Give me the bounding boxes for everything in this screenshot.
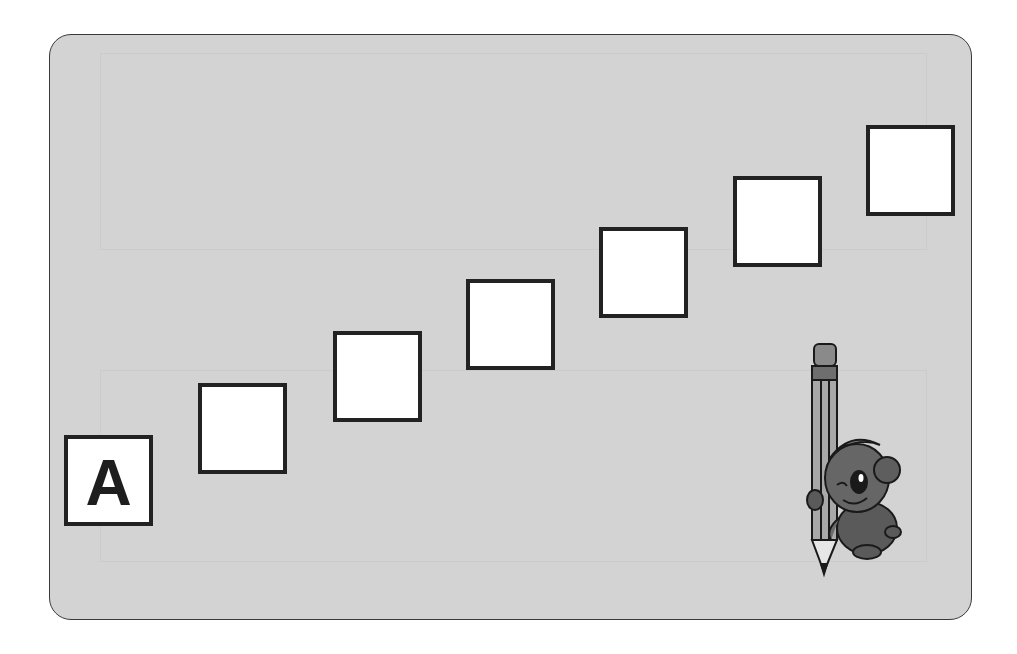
sequence-letter: A xyxy=(85,451,131,515)
sequence-box-3[interactable] xyxy=(333,331,422,422)
sequence-box-1: A xyxy=(64,435,153,526)
bear-with-pencil-icon xyxy=(795,340,915,580)
sequence-box-2[interactable] xyxy=(198,383,287,474)
sequence-box-7[interactable] xyxy=(866,125,955,216)
sequence-box-4[interactable] xyxy=(466,279,555,370)
sequence-box-5[interactable] xyxy=(599,227,688,318)
sequence-box-6[interactable] xyxy=(733,176,822,267)
